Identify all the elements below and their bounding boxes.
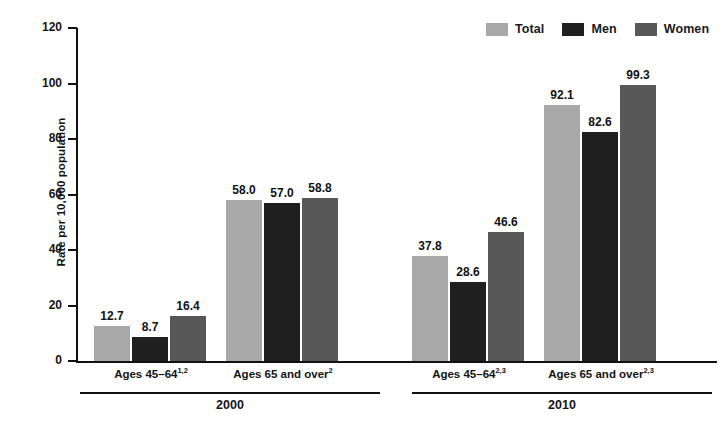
bar-value-label: 46.6 [482, 215, 530, 229]
y-tick-80 [68, 138, 77, 140]
y-tick-60 [68, 194, 77, 196]
x-category-footnote: 1,2 [177, 366, 187, 375]
bar-women-group-4 [620, 85, 656, 361]
y-tick-label-0: 0 [20, 353, 62, 367]
year-label-2000: 2000 [80, 398, 380, 412]
bar-value-label: 37.8 [406, 239, 454, 253]
bar-value-label: 82.6 [576, 115, 624, 129]
y-tick-label-120: 120 [20, 20, 62, 34]
x-category-text: Ages 65 and over [233, 368, 328, 380]
bar-value-label: 99.3 [614, 68, 662, 82]
x-category-text: Ages 45–64 [432, 368, 495, 380]
y-tick-label-80: 80 [20, 131, 62, 145]
bar-value-label: 16.4 [164, 299, 212, 313]
bar-total-group-1 [94, 326, 130, 361]
x-axis-line [76, 361, 717, 363]
bar-men-group-4 [582, 132, 618, 361]
year-rule-2010 [412, 392, 712, 394]
bar-women-group-1 [170, 316, 206, 362]
x-category-label-4: Ages 65 and over2,3 [516, 368, 686, 380]
bar-total-group-2 [226, 200, 262, 361]
bar-total-group-3 [412, 256, 448, 361]
bar-value-label: 8.7 [126, 320, 174, 334]
year-label-2010: 2010 [412, 398, 712, 412]
bar-value-label: 58.8 [296, 181, 344, 195]
bar-women-group-3 [488, 232, 524, 361]
y-tick-label-100: 100 [20, 76, 62, 90]
y-tick-120 [68, 27, 77, 29]
bar-men-group-1 [132, 337, 168, 361]
y-tick-label-60: 60 [20, 187, 62, 201]
x-category-text: Ages 45–64 [114, 368, 177, 380]
x-category-label-2: Ages 65 and over2 [198, 368, 368, 380]
bar-men-group-3 [450, 282, 486, 361]
y-tick-label-20: 20 [20, 298, 62, 312]
x-category-footnote: 2,3 [495, 366, 505, 375]
bar-value-label: 92.1 [538, 88, 586, 102]
x-category-footnote: 2,3 [643, 366, 653, 375]
bar-men-group-2 [264, 203, 300, 361]
y-tick-100 [68, 83, 77, 85]
bar-value-label: 28.6 [444, 265, 492, 279]
plot-area: 12.78.716.458.057.058.837.828.646.692.18… [78, 28, 717, 361]
x-category-text: Ages 65 and over [548, 368, 643, 380]
y-tick-20 [68, 305, 77, 307]
y-tick-label-40: 40 [20, 242, 62, 256]
bar-women-group-2 [302, 198, 338, 361]
year-rule-2000 [80, 392, 380, 394]
bar-total-group-4 [544, 105, 580, 361]
x-category-footnote: 2 [329, 366, 333, 375]
y-tick-40 [68, 249, 77, 251]
y-tick-0 [68, 360, 77, 362]
